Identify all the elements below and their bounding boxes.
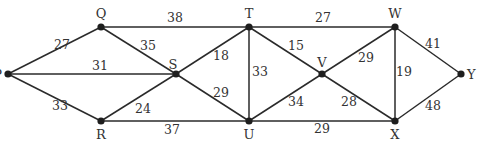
edge-weight-p-q: 27	[54, 37, 70, 52]
node-w	[391, 23, 398, 30]
edge-weight-u-v: 34	[288, 94, 304, 109]
edge-weight-p-r: 33	[52, 98, 68, 113]
edge-weight-s-t: 18	[213, 48, 229, 63]
node-label-v: V	[316, 55, 327, 70]
edge-weight-r-s: 24	[135, 101, 151, 116]
edge-weight-t-v: 15	[288, 38, 304, 53]
edge-u-v	[249, 74, 322, 121]
node-label-u: U	[244, 127, 255, 142]
edge-weight-u-x: 29	[314, 121, 330, 136]
edge-weight-p-s: 31	[92, 58, 108, 73]
node-r	[97, 117, 104, 124]
node-q	[97, 23, 104, 30]
edge-weight-t-w: 27	[315, 10, 331, 25]
edge-weight-x-y: 48	[425, 98, 441, 113]
node-label-q: Q	[96, 6, 107, 21]
edge-v-x	[322, 74, 395, 121]
node-y	[457, 70, 464, 77]
node-label-x: X	[390, 127, 400, 142]
weighted-graph-diagram: 27313335382437182933152734292928194148 P…	[0, 0, 492, 147]
edge-weight-r-u: 37	[164, 122, 180, 137]
node-t	[245, 23, 252, 30]
node-p	[4, 70, 11, 77]
node-label-t: T	[245, 6, 254, 21]
node-label-s: S	[169, 57, 178, 72]
edge-weight-w-x: 19	[396, 64, 412, 79]
edge-weight-t-u: 33	[252, 64, 268, 79]
node-label-y: Y	[466, 67, 476, 82]
edges-layer	[8, 27, 461, 121]
edge-weight-w-y: 41	[425, 36, 441, 51]
node-label-p: P	[0, 67, 2, 82]
edge-weight-v-w: 29	[358, 50, 374, 65]
edge-q-s	[101, 27, 176, 74]
node-x	[391, 117, 398, 124]
edge-weight-v-x: 28	[341, 94, 357, 109]
node-v	[318, 70, 325, 77]
node-u	[245, 117, 252, 124]
edge-weight-q-s: 35	[140, 38, 156, 53]
node-label-r: R	[96, 127, 107, 142]
edge-weight-q-t: 38	[167, 10, 183, 25]
edge-weight-s-u: 29	[213, 85, 229, 100]
node-label-w: W	[388, 6, 402, 21]
